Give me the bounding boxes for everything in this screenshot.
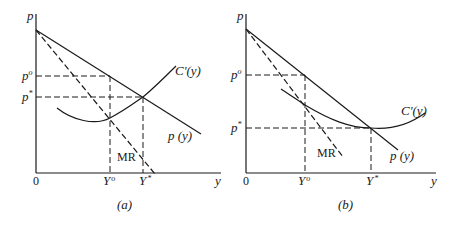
marginal-revenue-curve bbox=[36, 30, 155, 174]
demand-curve bbox=[246, 29, 398, 150]
marginal-cost-curve bbox=[57, 66, 176, 122]
p-monopoly-label: po bbox=[21, 68, 33, 83]
y-competitive-label: Y* bbox=[366, 173, 378, 188]
diagram-canvas: p y 0 po p* Yo Y* C'(y) p (y) MR (a) p y… bbox=[0, 0, 458, 225]
price-axis-label: p bbox=[26, 8, 34, 23]
marginal-revenue-label: MR bbox=[317, 146, 336, 160]
marginal-cost-label: C'(y) bbox=[401, 103, 427, 118]
y-monopoly-label: Yo bbox=[298, 173, 310, 188]
panel-caption: (b) bbox=[338, 197, 353, 212]
panel-caption: (a) bbox=[117, 197, 132, 212]
demand-curve bbox=[36, 30, 201, 134]
demand-label: p (y) bbox=[389, 148, 414, 163]
marginal-revenue-label: MR bbox=[117, 150, 136, 164]
y-monopoly-label: Yo bbox=[103, 173, 115, 188]
panel-a: p y 0 po p* Yo Y* C'(y) p (y) MR (a) bbox=[21, 8, 221, 212]
panel-b: p y 0 po p* Yo Y* C'(y) p (y) MR (b) bbox=[230, 8, 437, 212]
price-axis-label: p bbox=[236, 8, 244, 23]
marginal-cost-label: C'(y) bbox=[175, 63, 201, 78]
p-monopoly-label: po bbox=[230, 67, 242, 82]
quantity-axis-label: y bbox=[213, 173, 221, 188]
origin-label: 0 bbox=[33, 174, 39, 188]
quantity-axis-label: y bbox=[429, 173, 437, 188]
p-competitive-label: p* bbox=[21, 89, 33, 104]
p-competitive-label: p* bbox=[230, 120, 242, 135]
origin-label: 0 bbox=[243, 174, 249, 188]
demand-label: p (y) bbox=[167, 128, 192, 143]
marginal-revenue-curve bbox=[246, 29, 343, 157]
y-competitive-label: Y* bbox=[139, 173, 151, 188]
